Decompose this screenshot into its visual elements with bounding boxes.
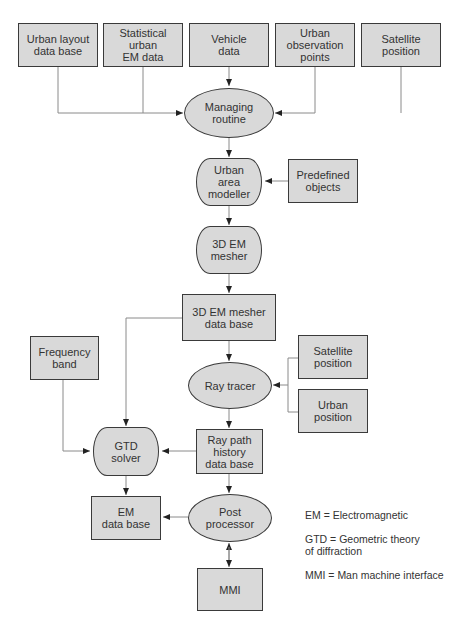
managing-routine-ellipse: Managing routine — [184, 88, 274, 138]
legend-gtd: GTD = Geometric theory of diffraction — [305, 533, 444, 557]
statistical-urban-em-data-box: Statistical urban EM data — [103, 23, 183, 67]
urban-area-modeller-node: Urban area modeller — [196, 158, 262, 206]
3d-em-mesher-node: 3D EM mesher — [196, 226, 262, 274]
frequency-band-box: Frequency band — [30, 336, 99, 380]
gtd-solver-node: GTD solver — [93, 427, 159, 476]
urban-position-box: Urban position — [298, 389, 368, 433]
urban-layout-database-box: Urban layout data base — [18, 23, 98, 67]
3d-em-mesher-database-box: 3D EM mesher data base — [182, 294, 276, 341]
vehicle-data-box: Vehicle data — [189, 23, 269, 67]
satellite-position-top-box: Satellite position — [361, 23, 441, 67]
satellite-position-right-box: Satellite position — [298, 335, 368, 379]
ray-tracer-ellipse: Ray tracer — [188, 362, 272, 409]
post-processor-ellipse: Post processor — [188, 494, 272, 542]
em-database-box: EM data base — [91, 496, 161, 540]
urban-observation-points-box: Urban observation points — [275, 23, 355, 67]
predefined-objects-box: Predefined objects — [288, 159, 358, 203]
legend-mmi: MMI = Man machine interface — [305, 569, 444, 581]
mmi-box: MMI — [197, 568, 263, 611]
legend-em: EM = Electromagnetic — [305, 509, 444, 521]
abbreviation-legend: EM = Electromagnetic GTD = Geometric the… — [305, 497, 444, 593]
ray-path-history-database-box: Ray path history data base — [196, 429, 263, 474]
